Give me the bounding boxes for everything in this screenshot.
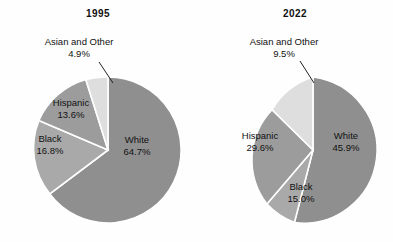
slice-label-percent: 29.6%	[227, 142, 293, 154]
slice-label-category: White	[107, 134, 167, 146]
slice-label-percent: 15.0%	[273, 193, 329, 205]
slice-label-2022-white: White 45.9%	[317, 130, 375, 154]
panel-2022: 2022 Asian and Other 9.5% White 45.9% Bl…	[197, 0, 393, 242]
pie-chart-figure: 1995 Asian and Other 4.9% White 64.7% Bl…	[0, 0, 393, 242]
slice-label-category: White	[317, 130, 375, 142]
slice-label-percent: 45.9%	[317, 142, 375, 154]
callout-percent: 4.9%	[14, 48, 144, 60]
slice-label-percent: 13.6%	[38, 109, 104, 121]
callout-2022-asian-other: Asian and Other 9.5%	[219, 36, 349, 60]
slice-label-category: Black	[21, 133, 79, 145]
callout-percent: 9.5%	[219, 48, 349, 60]
slice-label-1995-black: Black 16.8%	[21, 133, 79, 157]
callout-1995-asian-other: Asian and Other 4.9%	[14, 36, 144, 60]
callout-category: Asian and Other	[219, 36, 349, 48]
callout-category: Asian and Other	[14, 36, 144, 48]
slice-label-category: Hispanic	[38, 97, 104, 109]
slice-label-percent: 16.8%	[21, 145, 79, 157]
slice-label-1995-white: White 64.7%	[107, 134, 167, 158]
slice-label-category: Hispanic	[227, 130, 293, 142]
slice-label-1995-hispanic: Hispanic 13.6%	[38, 97, 104, 121]
slice-label-2022-black: Black 15.0%	[273, 181, 329, 205]
panel-1995: 1995 Asian and Other 4.9% White 64.7% Bl…	[0, 0, 196, 242]
slice-label-percent: 64.7%	[107, 146, 167, 158]
slice-label-category: Black	[273, 181, 329, 193]
slice-label-2022-hispanic: Hispanic 29.6%	[227, 130, 293, 154]
